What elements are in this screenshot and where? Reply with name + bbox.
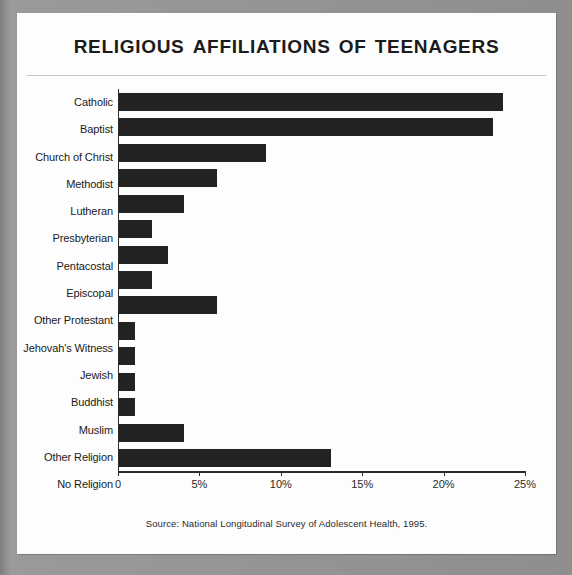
category-label: No Religion — [17, 471, 113, 498]
bar-row — [119, 395, 526, 420]
bar-episcopal — [119, 271, 152, 289]
tick-label: 15% — [351, 478, 373, 490]
bar-row — [119, 114, 526, 139]
category-axis-labels: CatholicBaptistChurch of ChristMethodist… — [17, 89, 113, 471]
bar-row — [119, 420, 526, 445]
bar-row — [119, 267, 526, 292]
category-label: Other Protestant — [17, 307, 113, 334]
bar-baptist — [119, 118, 493, 136]
category-label: Catholic — [17, 89, 113, 116]
bar-row — [119, 318, 526, 343]
bar-pentacostal — [119, 246, 168, 264]
category-label: Jewish — [17, 362, 113, 389]
category-label: Jehovah's Witness — [17, 335, 113, 362]
tick-label: 5% — [191, 478, 207, 490]
tick-mark — [281, 471, 282, 476]
tick-label: 0 — [115, 478, 121, 490]
plot-area — [118, 89, 526, 471]
bar-catholic — [119, 93, 503, 111]
category-label: Buddhist — [17, 389, 113, 416]
bar-no-religion — [119, 449, 331, 467]
page-title: Religious Affiliations of Teenagers — [17, 29, 556, 60]
bar-other-religion — [119, 424, 184, 442]
category-label: Muslim — [17, 417, 113, 444]
bar-other-protestant — [119, 296, 217, 314]
tick-mark — [118, 471, 119, 476]
source-note: Source: National Longitudinal Survey of … — [17, 518, 556, 529]
tick-label: 20% — [433, 478, 455, 490]
tick-mark — [199, 471, 200, 476]
bar-row — [119, 165, 526, 190]
bar-buddhist — [119, 373, 135, 391]
bar-row — [119, 369, 526, 394]
bar-row — [119, 446, 526, 471]
bar-row — [119, 344, 526, 369]
bar-row — [119, 216, 526, 241]
bar-methodist — [119, 169, 217, 187]
x-axis-ticks: 05%10%15%20%25% — [118, 471, 525, 477]
bar-row — [119, 242, 526, 267]
bar-row — [119, 293, 526, 318]
tick-mark — [362, 471, 363, 476]
bar-row — [119, 191, 526, 216]
bar-series — [119, 89, 526, 471]
category-label: Lutheran — [17, 198, 113, 225]
bar-row — [119, 89, 526, 114]
category-label: Other Religion — [17, 444, 113, 471]
category-label: Episcopal — [17, 280, 113, 307]
title-divider — [27, 75, 546, 76]
chart-card: Religious Affiliations of Teenagers Cath… — [17, 13, 556, 554]
bar-jewish — [119, 347, 135, 365]
bar-presbyterian — [119, 220, 152, 238]
bar-lutheran — [119, 195, 184, 213]
tick-mark — [444, 471, 445, 476]
category-label: Pentacostal — [17, 253, 113, 280]
tick-mark — [525, 471, 526, 476]
category-label: Baptist — [17, 116, 113, 143]
bar-muslim — [119, 398, 135, 416]
category-label: Presbyterian — [17, 225, 113, 252]
bar-row — [119, 140, 526, 165]
category-label: Methodist — [17, 171, 113, 198]
bar-jehovah-s-witness — [119, 322, 135, 340]
bar-chart: CatholicBaptistChurch of ChristMethodist… — [17, 81, 556, 554]
bar-church-of-christ — [119, 144, 266, 162]
figure-root: Religious Affiliations of Teenagers Cath… — [0, 0, 572, 575]
tick-label: 25% — [514, 478, 536, 490]
tick-label: 10% — [270, 478, 292, 490]
category-label: Church of Christ — [17, 144, 113, 171]
